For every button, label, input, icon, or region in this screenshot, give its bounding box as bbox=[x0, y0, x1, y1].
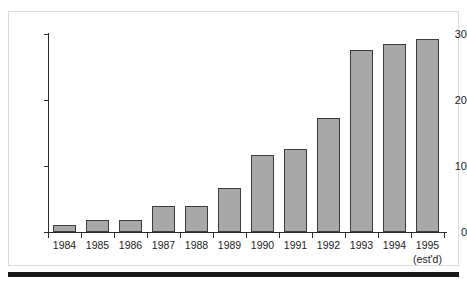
x-tick-mark-9 bbox=[345, 233, 346, 238]
x-axis-line bbox=[48, 232, 447, 233]
x-tick-mark-8 bbox=[312, 233, 313, 238]
bar-1986 bbox=[119, 220, 142, 232]
x-tick-mark-2 bbox=[114, 233, 115, 238]
bar-1988 bbox=[185, 206, 208, 232]
x-tick-mark-0 bbox=[48, 233, 49, 238]
bar-1992 bbox=[317, 118, 340, 232]
bar-1991 bbox=[284, 149, 307, 232]
x-tick-mark-1 bbox=[81, 233, 82, 238]
bar-1989 bbox=[218, 188, 241, 232]
bar-1990 bbox=[251, 155, 274, 232]
x-tick-mark-12 bbox=[444, 233, 445, 238]
x-tick-mark-3 bbox=[147, 233, 148, 238]
x-tick-mark-5 bbox=[213, 233, 214, 238]
x-tick-label-1995: 1995 bbox=[407, 239, 448, 251]
bar-1984 bbox=[53, 225, 76, 232]
x-tick-mark-6 bbox=[246, 233, 247, 238]
bar-1985 bbox=[86, 220, 109, 232]
bar-1993 bbox=[350, 50, 373, 232]
bottom-rule bbox=[8, 272, 459, 277]
x-tick-mark-10 bbox=[378, 233, 379, 238]
x-tick-mark-7 bbox=[279, 233, 280, 238]
bar-1987 bbox=[152, 206, 175, 232]
y-tick-mark-10 bbox=[44, 166, 48, 167]
bar-1994 bbox=[383, 44, 406, 232]
x-tick-mark-11 bbox=[411, 233, 412, 238]
y-axis-line bbox=[48, 33, 49, 233]
x-tick-mark-4 bbox=[180, 233, 181, 238]
plot-area: 0 10 20 30 1984 198 bbox=[0, 0, 467, 281]
bar-1995 bbox=[416, 39, 439, 232]
y-tick-mark-20 bbox=[44, 100, 48, 101]
y-tick-mark-30 bbox=[44, 34, 48, 35]
figure: 0 10 20 30 1984 198 bbox=[0, 0, 467, 281]
x-sublabel-1995-estimated: (est'd) bbox=[407, 253, 448, 265]
